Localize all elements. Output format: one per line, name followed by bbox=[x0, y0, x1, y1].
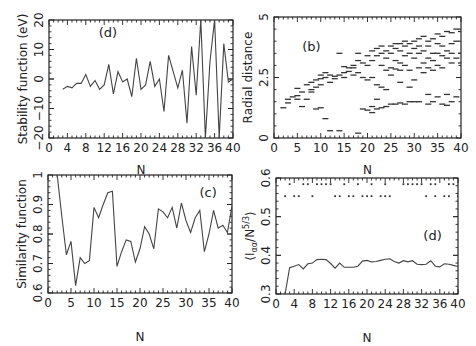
y-tick-label: 10 bbox=[32, 42, 46, 57]
x-tick-label: 4 bbox=[64, 141, 72, 155]
y-tick-label: −10 bbox=[32, 96, 46, 121]
y-tick-label: 0.5 bbox=[259, 207, 273, 226]
series-line bbox=[285, 259, 458, 294]
x-tick-label: 36 bbox=[207, 141, 222, 155]
y-tick-label: 0.9 bbox=[31, 195, 45, 214]
x-axis-label: N bbox=[136, 330, 145, 344]
dot-marker bbox=[421, 183, 423, 185]
x-tick-label: 15 bbox=[109, 296, 124, 310]
y-tick-label: −20 bbox=[32, 125, 46, 150]
panel-label: (d) bbox=[423, 228, 441, 243]
dot-marker bbox=[384, 195, 386, 197]
x-tick-label: 40 bbox=[225, 141, 240, 155]
y-axis-label: Similarity function bbox=[15, 179, 29, 289]
dot-marker bbox=[343, 183, 345, 185]
dot-marker bbox=[330, 183, 332, 185]
x-tick-label: 25 bbox=[383, 141, 398, 155]
chart-panel-stability: 0481216202428323640−20−1001020NStability… bbox=[16, 12, 241, 177]
x-tick-label: 5 bbox=[294, 141, 302, 155]
dot-marker bbox=[371, 183, 373, 185]
y-axis-label: ⟨Iαα/N5/3⟩ bbox=[242, 211, 259, 260]
x-tick-label: 16 bbox=[341, 297, 356, 311]
dot-marker bbox=[334, 195, 336, 197]
x-tick-label: 36 bbox=[432, 297, 447, 311]
x-tick-label: 40 bbox=[453, 141, 468, 155]
y-tick-label: 20 bbox=[32, 12, 46, 27]
x-tick-label: 30 bbox=[407, 141, 422, 155]
series-line bbox=[63, 20, 233, 138]
dot-marker bbox=[307, 183, 309, 185]
x-tick-label: 8 bbox=[82, 141, 90, 155]
x-tick-label: 10 bbox=[313, 141, 328, 155]
dot-marker bbox=[380, 195, 382, 197]
plot-frame bbox=[49, 20, 233, 138]
y-tick-label: 2.5 bbox=[257, 68, 271, 87]
y-tick-label: 0 bbox=[32, 75, 46, 83]
data-series bbox=[63, 20, 233, 138]
x-tick-label: 5 bbox=[67, 296, 75, 310]
panel-label: (c) bbox=[199, 185, 216, 200]
dot-marker bbox=[457, 195, 459, 197]
x-tick-label: 35 bbox=[430, 141, 445, 155]
dot-marker bbox=[425, 195, 427, 197]
x-tick-label: 32 bbox=[189, 141, 204, 155]
panel-label: (d) bbox=[99, 25, 117, 40]
dot-marker bbox=[284, 195, 286, 197]
dot-marker bbox=[302, 183, 304, 185]
x-tick-label: 40 bbox=[224, 296, 239, 310]
y-tick-label: 0.7 bbox=[31, 254, 45, 273]
x-tick-label: 24 bbox=[152, 141, 167, 155]
dot-marker bbox=[403, 183, 405, 185]
x-axis-label: N bbox=[363, 163, 372, 177]
x-tick-label: 20 bbox=[133, 141, 148, 155]
chart-panel-similarity: 05101520253035400.60.70.80.91NSimilarity… bbox=[15, 171, 240, 344]
dot-marker bbox=[389, 195, 391, 197]
x-tick-label: 10 bbox=[86, 296, 101, 310]
dot-marker bbox=[366, 195, 368, 197]
dot-marker bbox=[448, 183, 450, 185]
y-tick-label: 0.6 bbox=[31, 283, 45, 302]
dot-marker bbox=[298, 195, 300, 197]
dot-marker bbox=[407, 183, 409, 185]
y-tick-label: 0.3 bbox=[259, 284, 273, 303]
x-axis-label: N bbox=[363, 331, 372, 345]
dot-marker bbox=[316, 183, 318, 185]
x-tick-label: 8 bbox=[309, 297, 317, 311]
y-axis-label: Radial distance bbox=[241, 32, 255, 124]
x-tick-label: 25 bbox=[155, 296, 170, 310]
dot-marker bbox=[384, 183, 386, 185]
x-tick-label: 28 bbox=[170, 141, 185, 155]
figure-canvas: 0481216202428323640−20−1001020NStability… bbox=[0, 0, 476, 346]
dot-marker bbox=[416, 183, 418, 185]
chart-panel-inertia: 04812162024283236400.30.40.50.6N⟨Iαα/N5/… bbox=[242, 168, 466, 345]
x-tick-label: 0 bbox=[44, 296, 52, 310]
dot-marker bbox=[453, 183, 455, 185]
dot-marker bbox=[430, 183, 432, 185]
y-tick-label: 0.6 bbox=[259, 168, 273, 187]
y-tick-label: 0.8 bbox=[31, 224, 45, 243]
dot-marker bbox=[325, 183, 327, 185]
x-tick-label: 28 bbox=[396, 297, 411, 311]
dot-marker bbox=[348, 195, 350, 197]
x-tick-label: 12 bbox=[323, 297, 338, 311]
panel-label: (b) bbox=[302, 39, 320, 54]
x-tick-label: 20 bbox=[360, 141, 375, 155]
x-tick-label: 24 bbox=[378, 297, 393, 311]
x-tick-label: 32 bbox=[414, 297, 429, 311]
x-tick-label: 0 bbox=[272, 297, 280, 311]
y-axis-label: Stability function (eV) bbox=[16, 14, 30, 145]
x-tick-label: 20 bbox=[132, 296, 147, 310]
dot-marker bbox=[339, 195, 341, 197]
dot-marker bbox=[352, 195, 354, 197]
x-tick-label: 4 bbox=[290, 297, 298, 311]
dot-marker bbox=[434, 183, 436, 185]
x-tick-label: 40 bbox=[450, 297, 465, 311]
dot-marker bbox=[293, 195, 295, 197]
dot-marker bbox=[443, 195, 445, 197]
x-tick-label: 20 bbox=[359, 297, 374, 311]
x-tick-label: 30 bbox=[178, 296, 193, 310]
chart-panel-radial: 051015202530354002.55NRadial distance(b) bbox=[241, 13, 469, 177]
y-tick-label: 0 bbox=[257, 134, 271, 142]
x-tick-label: 15 bbox=[336, 141, 351, 155]
dot-marker bbox=[357, 183, 359, 185]
